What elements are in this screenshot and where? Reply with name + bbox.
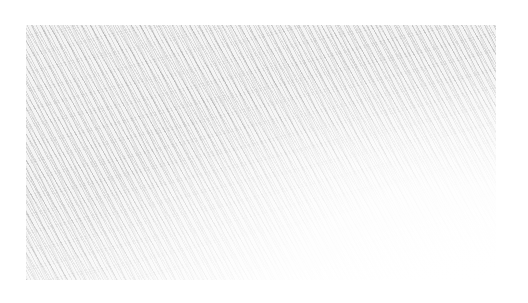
texture-fade-overlay — [26, 25, 496, 280]
